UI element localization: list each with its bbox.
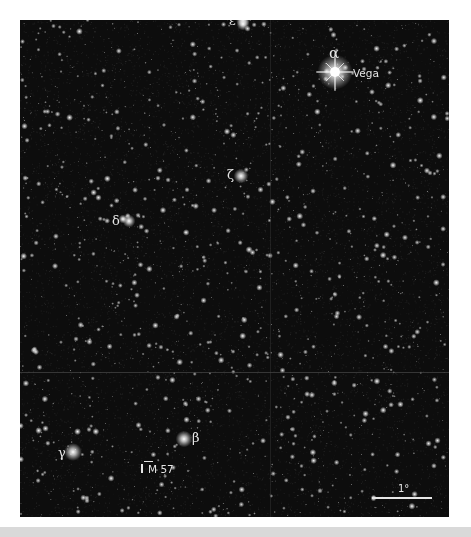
mosaic-seam-vertical: [270, 20, 271, 517]
alpha-lyrae-label: α: [329, 46, 339, 61]
gamma-lyrae-label: γ: [58, 446, 66, 459]
epsilon-lyrae-label: ε: [229, 20, 236, 27]
figure: ε α Vega ζ δ β γ M 57 1°: [0, 0, 471, 537]
star-field-canvas: [20, 20, 449, 517]
zeta-lyrae-label: ζ: [227, 168, 234, 181]
vega-label: Vega: [353, 68, 379, 79]
delta-lyrae-label: δ: [112, 214, 120, 227]
bottom-grey-band: [0, 527, 471, 537]
star-field-image: ε α Vega ζ δ β γ M 57 1°: [20, 20, 449, 517]
m57-position-marker: [141, 464, 143, 473]
mosaic-seam-horizontal: [20, 372, 449, 373]
beta-lyrae-label: β: [192, 431, 200, 444]
scale-bar-label: 1°: [398, 484, 409, 494]
m57-label: M 57: [148, 464, 174, 475]
angular-scale-bar: [372, 497, 432, 499]
m57-overbar-marker: [144, 461, 153, 462]
